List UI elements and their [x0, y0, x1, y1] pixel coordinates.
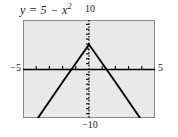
y-axis-min-label: −10 [76, 119, 104, 130]
x-axis-min-label: −5 [2, 62, 21, 73]
equation-base: y = 5 − x [20, 3, 68, 17]
graph-figure: y = 5 − x2 10 −10 −5 5 [0, 0, 178, 137]
equation-caption: y = 5 − x2 [20, 2, 72, 18]
plot-canvas [23, 20, 155, 118]
x-axis-max-label: 5 [158, 62, 176, 73]
equation-exponent: 2 [68, 2, 72, 11]
y-axis-max-label: 10 [78, 3, 102, 14]
